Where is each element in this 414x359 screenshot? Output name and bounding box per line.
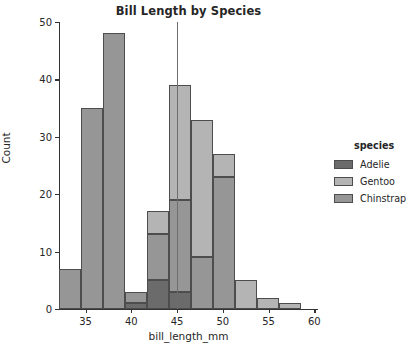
legend-entries: AdelieGentooChinstrap bbox=[334, 156, 414, 207]
histogram-bar bbox=[147, 234, 169, 280]
x-axis-tick bbox=[314, 309, 315, 313]
y-axis-tick bbox=[55, 252, 59, 253]
x-axis-tick bbox=[86, 309, 87, 313]
y-axis-tick bbox=[55, 194, 59, 195]
chart-figure: Bill Length by Species Count bill_length… bbox=[0, 0, 414, 359]
histogram-bar bbox=[103, 33, 125, 309]
histogram-bar bbox=[125, 292, 147, 303]
y-axis-tick-label: 20 bbox=[39, 189, 52, 200]
y-axis-tick-label: 50 bbox=[39, 17, 52, 28]
legend-swatch-icon bbox=[334, 194, 353, 204]
x-axis-tick-label: 45 bbox=[171, 316, 184, 327]
x-axis-tick bbox=[223, 309, 224, 313]
legend-title: species bbox=[354, 140, 414, 151]
x-axis-tick-label: 35 bbox=[79, 316, 92, 327]
x-axis-tick bbox=[131, 309, 132, 313]
histogram-bar bbox=[279, 303, 301, 309]
legend-swatch-icon bbox=[334, 160, 353, 170]
legend-item-chinstrap[interactable]: Chinstrap bbox=[334, 190, 414, 207]
x-axis-tick-label: 40 bbox=[125, 316, 138, 327]
y-axis-tick-label: 10 bbox=[39, 246, 52, 257]
y-axis-tick bbox=[55, 22, 59, 23]
histogram-bar bbox=[169, 200, 191, 292]
vertical-reference-line bbox=[177, 22, 178, 309]
x-axis-label: bill_length_mm bbox=[59, 330, 318, 342]
histogram-bar bbox=[169, 292, 191, 309]
legend-item-label: Gentoo bbox=[360, 176, 395, 187]
x-axis-tick bbox=[269, 309, 270, 313]
histogram-bar bbox=[191, 257, 213, 309]
legend-item-gentoo[interactable]: Gentoo bbox=[334, 173, 414, 190]
y-axis-tick bbox=[55, 79, 59, 80]
y-axis-tick bbox=[55, 137, 59, 138]
legend-item-adelie[interactable]: Adelie bbox=[334, 156, 414, 173]
histogram-bar bbox=[257, 298, 279, 309]
histogram-bar bbox=[235, 280, 257, 309]
histogram-bar bbox=[59, 269, 81, 309]
histogram-bar bbox=[147, 280, 169, 309]
legend-item-label: Chinstrap bbox=[360, 193, 406, 204]
y-axis-tick bbox=[55, 309, 59, 310]
histogram-bar bbox=[81, 108, 103, 309]
x-axis-tick-label: 50 bbox=[216, 316, 229, 327]
legend-swatch-icon bbox=[334, 177, 353, 187]
legend: species AdelieGentooChinstrap bbox=[334, 140, 414, 207]
histogram-bar bbox=[213, 154, 235, 177]
chart-title: Bill Length by Species bbox=[59, 4, 318, 18]
plot-area: 01020304050354045505560 bbox=[59, 22, 318, 309]
y-axis-tick-label: 30 bbox=[39, 131, 52, 142]
histogram-bar bbox=[213, 177, 235, 309]
x-axis-tick-label: 55 bbox=[262, 316, 275, 327]
y-axis-tick-label: 0 bbox=[46, 304, 52, 315]
histogram-bar bbox=[169, 85, 191, 200]
y-axis-label: Count bbox=[0, 132, 12, 163]
histogram-bar bbox=[125, 303, 147, 309]
x-axis-tick-label: 60 bbox=[308, 316, 321, 327]
histogram-bar bbox=[147, 211, 169, 234]
y-axis-tick-label: 40 bbox=[39, 74, 52, 85]
legend-item-label: Adelie bbox=[360, 159, 390, 170]
histogram-bar bbox=[191, 120, 213, 258]
x-axis-tick bbox=[177, 309, 178, 313]
